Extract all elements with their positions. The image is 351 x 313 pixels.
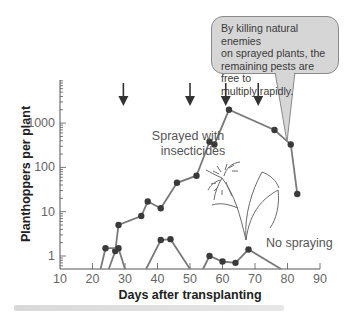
no-spraying-point [167,236,173,242]
no-spraying-point [206,253,212,259]
rice-plant-illustration [206,162,279,240]
no-spraying-point [245,246,251,252]
sprayed-point [138,213,144,219]
x-tick-label: 70 [248,272,262,286]
x-tick-label: 80 [281,272,295,286]
no-spraying-line [203,250,281,270]
callout-line: By killing natural enemies [221,22,332,47]
x-tick-label: 50 [183,272,197,286]
no-spraying-point [219,258,225,264]
sprayed-point [115,222,121,228]
callout-line: remaining pests are free to [221,60,332,85]
cropped-caption [14,305,284,311]
no-spraying-point [102,245,108,251]
y-tick-label: 100 [34,160,55,174]
x-tick-label: 20 [86,272,100,286]
callout-bubble: By killing natural enemies on sprayed pl… [211,16,339,74]
no-spraying-line [146,239,190,269]
sprayed-point [193,172,199,178]
sprayed-point [294,191,300,197]
no-spraying-point [232,260,238,266]
sprayed-point [145,198,151,204]
sprayed-point [174,180,180,186]
y-tick-label: 1 [48,249,55,263]
x-tick-label: 10 [53,272,67,286]
sprayed-series-label-line1: Sprayed with [152,129,224,143]
sprayed-point [288,141,294,147]
no-spraying-point [115,245,121,251]
no-spraying-series-label: No spraying [266,236,333,250]
sprayed-series-label-line2: insecticides [161,144,226,158]
sprayed-point [226,107,232,113]
callout-line: on sprayed plants, the [221,47,332,60]
x-tick-label: 30 [118,272,132,286]
y-axis-title: Planthoppers per plant [19,105,33,242]
sprayed-point [158,205,164,211]
x-tick-label: 60 [216,272,230,286]
callout-line: multiply rapidly. [221,85,332,98]
x-axis-title: Days after transplanting [118,288,261,302]
x-tick-label: 40 [151,272,165,286]
y-tick-label: 10 [41,205,55,219]
x-tick-label: 90 [313,272,327,286]
sprayed-point [271,127,277,133]
no-spraying-point [158,237,164,243]
